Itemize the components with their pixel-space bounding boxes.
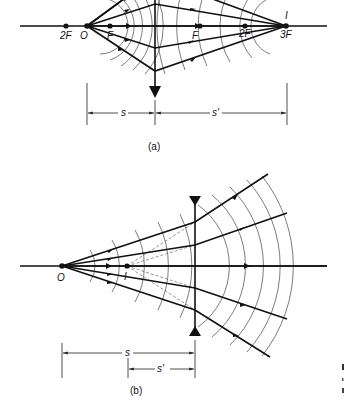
label-2f-left: 2F xyxy=(59,30,73,41)
label-s-prime-b: s' xyxy=(157,363,165,374)
point-f-right xyxy=(197,23,202,28)
label-object-b: O xyxy=(57,272,65,283)
lens-arrow-top-icon xyxy=(189,196,201,206)
point-object-b xyxy=(59,263,65,269)
label-f-left: F xyxy=(107,30,114,41)
point-f-left xyxy=(107,23,112,28)
figure-a: 2F O F F 2F I 3F s s' (a) xyxy=(20,0,327,152)
label-object-a: O xyxy=(80,30,88,41)
lens-arrow-bottom-icon xyxy=(189,326,201,336)
lens-arrow-down-icon xyxy=(149,86,161,98)
label-3f: 3F xyxy=(280,29,293,40)
point-image-b xyxy=(124,263,129,268)
rays-a xyxy=(87,0,286,71)
label-s-a: s xyxy=(121,107,126,118)
label-image-b: I xyxy=(124,271,127,282)
dimension-a: s s' xyxy=(87,83,287,125)
label-image-a: I xyxy=(285,10,288,21)
point-2f-left xyxy=(63,23,68,28)
figure-b: O I s s' (b) xyxy=(20,174,327,396)
point-image-a xyxy=(283,23,289,29)
point-object-a xyxy=(84,23,90,29)
caption-b: (b) xyxy=(130,385,142,396)
label-s-prime-a: s' xyxy=(212,107,220,118)
label-s-b: s xyxy=(125,347,130,358)
dimension-b: s s' xyxy=(62,340,195,378)
label-2f-right: 2F xyxy=(238,28,252,39)
label-f-right: F xyxy=(192,30,199,41)
lens-diagrams: 2F O F F 2F I 3F s s' (a) xyxy=(0,0,345,400)
cropped-margin-text xyxy=(342,364,344,393)
caption-a: (a) xyxy=(148,141,160,152)
